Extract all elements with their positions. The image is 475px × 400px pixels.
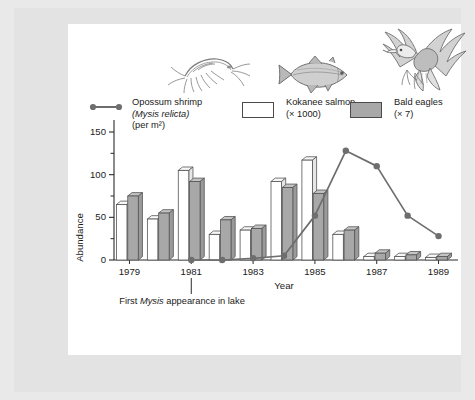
- y-tick-label: 100: [80, 169, 106, 180]
- x-tick-label: 1981: [169, 266, 213, 277]
- shrimp-data-point-1981: [188, 257, 194, 263]
- bar-bald-eagles-1987: [375, 250, 390, 260]
- bar-bald-eagles-1980: [159, 210, 174, 260]
- shrimp-data-point-1988: [404, 212, 410, 218]
- shrimp-data-point-1982: [219, 257, 225, 263]
- x-tick-label: 1989: [417, 266, 461, 277]
- x-tick-label: 1983: [231, 266, 275, 277]
- x-axis-label: Year: [239, 280, 329, 291]
- figure-root: Opossum shrimp (Mysis relicta) (per m²) …: [0, 0, 475, 400]
- shrimp-data-point-1983: [250, 255, 256, 261]
- annotation-italic: Mysis: [140, 296, 164, 306]
- bar-bald-eagles-1988: [406, 251, 421, 260]
- annotation-prefix: First: [119, 296, 140, 306]
- x-tick-label: 1985: [293, 266, 337, 277]
- shrimp-data-point-1984: [281, 253, 287, 259]
- shrimp-data-point-1986: [343, 148, 349, 154]
- bar-bald-eagles-1983: [251, 225, 266, 260]
- x-tick-label: 1987: [355, 266, 399, 277]
- y-tick-label: 150: [80, 126, 106, 137]
- x-tick-label: 1979: [107, 266, 151, 277]
- bar-bald-eagles-1985: [313, 190, 328, 260]
- bar-bald-eagles-1986: [344, 227, 359, 260]
- shrimp-data-point-1989: [435, 233, 441, 239]
- bar-bald-eagles-1982: [220, 216, 235, 260]
- mysis-annotation: First Mysis appearance in lake: [119, 296, 245, 306]
- plot-card: Opossum shrimp (Mysis relicta) (per m²) …: [68, 24, 461, 355]
- bar-bald-eagles-1981: [190, 178, 205, 260]
- y-axis-label: Abundance: [74, 193, 85, 283]
- bar-bald-eagles-1979: [128, 193, 143, 260]
- figure-panel: Opossum shrimp (Mysis relicta) (per m²) …: [14, 8, 461, 392]
- shrimp-data-point-1987: [374, 163, 380, 169]
- shrimp-data-point-1985: [312, 212, 318, 218]
- annotation-suffix: appearance in lake: [164, 296, 245, 306]
